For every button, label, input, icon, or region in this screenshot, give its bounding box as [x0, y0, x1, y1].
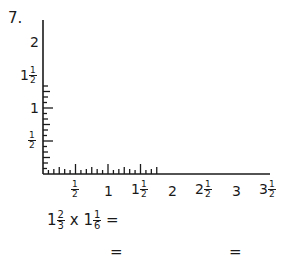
x-label-1-half: 112 — [131, 180, 148, 199]
x-label-1: 1 — [104, 184, 113, 198]
answer-equals-2: = — [229, 243, 242, 261]
x-label-3-half: 312 — [259, 180, 276, 199]
multiplication-expression: 123 x 116 = — [47, 210, 119, 231]
x-label-2-half: 212 — [195, 180, 212, 199]
x-label-2: 2 — [168, 184, 177, 198]
area-model-axes — [0, 0, 288, 273]
x-label-3: 3 — [232, 184, 241, 198]
answer-equals-1: = — [110, 243, 123, 261]
y-label-1: 1 — [30, 101, 39, 115]
x-label-half: 12 — [71, 180, 79, 199]
y-label-2: 2 — [30, 35, 39, 49]
y-label-1-half: 112 — [20, 66, 37, 85]
y-label-half: 12 — [28, 131, 36, 150]
